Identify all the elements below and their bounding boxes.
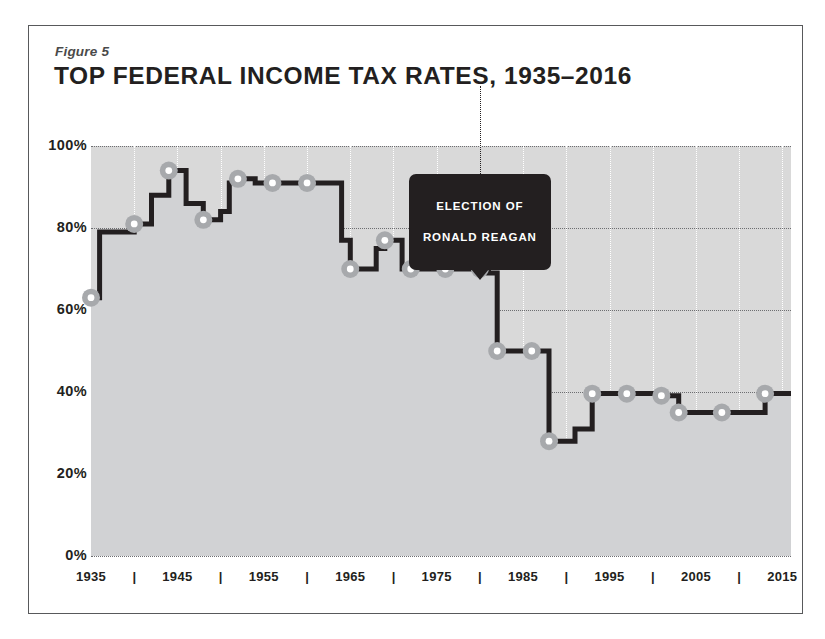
data-point-marker — [718, 409, 725, 416]
annotation-line-2: RONALD REAGAN — [423, 230, 537, 246]
x-axis-minor-tick: | — [564, 569, 568, 584]
x-axis-tick-label: 1965 — [335, 569, 365, 584]
x-axis-tick-label: 1945 — [162, 569, 192, 584]
data-point-marker — [269, 180, 276, 187]
y-axis-tick-label: 60% — [29, 301, 87, 317]
x-axis-tick-label: 1995 — [594, 569, 624, 584]
x-axis-minor-tick: | — [651, 569, 655, 584]
data-point-marker — [658, 392, 665, 399]
data-point-marker — [235, 175, 242, 182]
figure-card: Figure 5 TOP FEDERAL INCOME TAX RATES, 1… — [28, 25, 803, 614]
hgridline-0 — [91, 556, 791, 557]
y-axis-tick-label: 100% — [29, 137, 87, 153]
data-point-marker — [304, 180, 311, 187]
x-axis-minor-tick: | — [737, 569, 741, 584]
y-axis-tick-label: 80% — [29, 219, 87, 235]
data-point-marker — [675, 409, 682, 416]
x-axis-minor-tick: | — [392, 569, 396, 584]
x-axis-tick-label: 1955 — [249, 569, 279, 584]
x-axis-tick-label: 2005 — [681, 569, 711, 584]
y-axis-tick-label: 20% — [29, 465, 87, 481]
x-axis-minor-tick: | — [478, 569, 482, 584]
data-point-marker — [528, 348, 535, 355]
x-axis-minor-tick: | — [305, 569, 309, 584]
x-axis-minor-tick: | — [132, 569, 136, 584]
x-axis-tick-label: 2015 — [767, 569, 797, 584]
data-point-marker — [381, 237, 388, 244]
data-point-marker — [623, 390, 630, 397]
data-point-marker — [131, 221, 138, 228]
x-axis-tick-label: 1935 — [76, 569, 106, 584]
annotation-line-1: ELECTION OF — [423, 199, 537, 215]
x-axis-minor-tick: | — [219, 569, 223, 584]
data-point-marker — [546, 438, 553, 445]
y-axis-tick-label: 0% — [29, 547, 87, 563]
data-point-marker — [165, 167, 172, 174]
data-point-marker — [589, 390, 596, 397]
data-point-marker — [347, 266, 354, 273]
x-axis-tick-label: 1985 — [508, 569, 538, 584]
x-axis-tick-label: 1975 — [422, 569, 452, 584]
data-point-marker — [494, 348, 501, 355]
annotation-callout-tail — [471, 269, 489, 280]
data-point-marker — [200, 216, 207, 223]
data-point-marker — [762, 390, 769, 397]
figure-number: Figure 5 — [55, 44, 109, 59]
annotation-callout: ELECTION OF RONALD REAGAN — [409, 174, 551, 270]
y-axis-tick-label: 40% — [29, 383, 87, 399]
data-point-marker — [88, 294, 95, 301]
page-title: TOP FEDERAL INCOME TAX RATES, 1935–2016 — [54, 62, 632, 90]
